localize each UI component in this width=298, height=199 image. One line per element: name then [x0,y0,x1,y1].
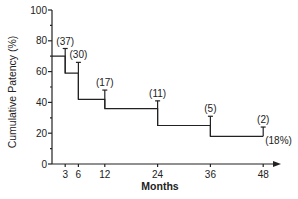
patency-chart: 0204060801003612243648 (37)(30)(17)(11)(… [0,0,298,199]
final-percent-label: (18%) [265,135,292,146]
x-tick-label: 48 [258,169,270,180]
n-at-risk-label: (11) [149,88,166,99]
n-at-risk-label: (5) [204,103,216,114]
x-tick-label: 3 [62,169,68,180]
x-axis-arrow-icon [273,161,281,167]
n-at-risk-label: (2) [257,114,269,125]
y-tick-label: 100 [30,5,47,16]
x-tick-label: 24 [152,169,164,180]
y-tick-label: 0 [41,159,47,170]
x-tick-label: 6 [76,169,82,180]
x-tick-label: 36 [205,169,217,180]
n-at-risk-label: (30) [70,49,88,60]
y-tick-label: 80 [36,35,48,46]
y-tick-label: 60 [36,66,48,77]
y-tick-label: 20 [36,128,48,139]
n-at-risk-label: (17) [96,77,114,88]
n-at-risk-label: (37) [56,36,74,47]
x-tick-label: 12 [99,169,111,180]
annotations: (37)(30)(17)(11)(5)(2)(18%) [56,36,292,147]
y-tick-label: 40 [36,97,48,108]
y-axis-label: Cumulative Patency (%) [6,36,18,149]
x-axis-label: Months [141,180,178,192]
